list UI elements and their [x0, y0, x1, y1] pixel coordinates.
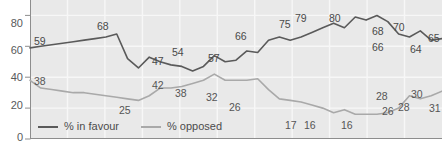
data-point-label: 66	[372, 42, 384, 52]
data-point-label: 16	[304, 120, 316, 130]
y-axis-tick-label: 60	[1, 45, 23, 56]
vertical-gridlines	[30, 0, 442, 139]
data-point-label: 17	[285, 120, 297, 130]
data-point-label: 80	[329, 13, 341, 23]
data-point-label: 25	[119, 105, 131, 115]
data-point-label: 32	[206, 92, 218, 102]
data-point-label: 64	[410, 44, 422, 54]
data-point-label: 31	[429, 103, 441, 113]
legend-item[interactable]: % in favour	[38, 121, 119, 132]
data-point-label: 28	[398, 102, 410, 112]
data-point-label: 38	[34, 76, 46, 86]
y-axis-tick-label: 0	[1, 132, 23, 143]
y-axis-tick-label: 80	[1, 18, 23, 29]
data-point-label: 70	[393, 22, 405, 32]
chart-legend: % in favour% opposed	[38, 121, 222, 132]
legend-label: % opposed	[167, 121, 222, 132]
legend-line-swatch	[38, 126, 58, 128]
data-point-label: 42	[152, 80, 164, 90]
data-point-label: 65	[428, 33, 440, 43]
y-axis	[25, 0, 442, 139]
data-point-label: 68	[372, 26, 384, 36]
legend-label: % in favour	[64, 121, 119, 132]
legend-line-swatch	[141, 126, 161, 128]
data-point-label: 68	[97, 21, 109, 31]
data-point-label: 57	[208, 53, 220, 63]
data-point-label: 54	[172, 47, 184, 57]
data-point-label: 59	[34, 36, 46, 46]
y-axis-tick-label: 40	[1, 72, 23, 83]
data-point-label: 66	[235, 31, 247, 41]
data-point-label: 47	[152, 56, 164, 66]
data-point-label: 75	[279, 19, 291, 29]
data-point-label: 38	[175, 88, 187, 98]
data-point-label: 16	[341, 120, 353, 130]
data-point-label: 26	[229, 102, 241, 112]
y-axis-ticks	[25, 15, 31, 139]
data-point-label: 28	[376, 91, 388, 101]
data-point-label: 26	[382, 106, 394, 116]
y-axis-tick-label: 20	[1, 100, 23, 111]
line-chart: 806040200 596847545766757980686670646538…	[0, 0, 442, 153]
data-point-label: 30	[411, 89, 423, 99]
legend-item[interactable]: % opposed	[141, 121, 222, 132]
data-point-label: 79	[295, 13, 307, 23]
